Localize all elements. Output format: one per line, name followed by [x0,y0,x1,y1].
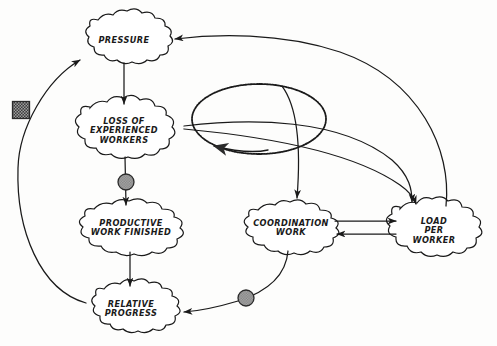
edge-coordination-to-relative[interactable] [184,251,288,312]
node-pressure-shape[interactable] [86,9,173,64]
marker-delay-square[interactable] [13,102,30,119]
edge-loss-to-load-secondary[interactable] [184,129,416,204]
diagram-svg [0,0,497,346]
diagram-canvas: PRESSURE LOSS OF EXPERIENCED WORKERS PRO… [0,0,497,346]
node-coordination-shape[interactable] [244,200,339,255]
node-productive-shape[interactable] [79,199,183,256]
edge-feedback-loop[interactable] [192,84,326,154]
node-loss-shape[interactable] [75,95,174,158]
node-load-shape[interactable] [386,197,481,257]
node-relative-shape[interactable] [92,279,180,333]
edge-loop-to-coordination[interactable] [282,86,298,198]
edge-load-to-pressure[interactable] [175,36,447,206]
marker-delay-circle-1[interactable] [118,174,134,190]
marker-delay-circle-2[interactable] [238,290,254,306]
edge-relative-to-pressure[interactable] [18,60,86,303]
